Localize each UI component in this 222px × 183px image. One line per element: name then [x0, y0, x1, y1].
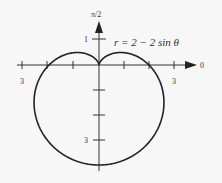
axis-label-pi-over-2: π/2 [91, 10, 101, 19]
tick-label-right-3: 3 [172, 77, 176, 86]
tick-label-down-3: 3 [84, 136, 88, 145]
polar-plot: π/2 0 1 3 3 3 r = 2 − 2 sin θ [0, 0, 222, 183]
tick-label-up-1: 1 [84, 35, 88, 44]
polar-axis-arrow-icon [185, 61, 197, 69]
axis-label-zero: 0 [200, 61, 204, 70]
vertical-axis-arrow-icon [95, 21, 103, 33]
equation-label: r = 2 − 2 sin θ [114, 36, 179, 48]
tick-label-left-3: 3 [20, 77, 24, 86]
